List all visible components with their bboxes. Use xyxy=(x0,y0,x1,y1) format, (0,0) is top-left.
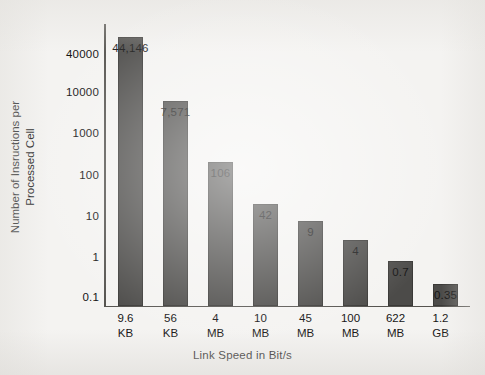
x-tick-speed-6: 622 xyxy=(386,312,405,324)
bar-value-label-1: 7,571 xyxy=(143,106,208,118)
y-tick-label: 100 xyxy=(79,169,99,181)
y-axis-title-line2: Processed Cell xyxy=(24,128,36,205)
x-tick-speed-0: 9.6 xyxy=(118,312,134,324)
y-tick-label: 10 xyxy=(86,210,99,222)
x-tick-speed-4: 45 xyxy=(299,312,312,324)
y-tick-label: 40000 xyxy=(66,48,99,60)
y-tick-label: 1000 xyxy=(73,127,99,139)
bar-value-label-2: 106 xyxy=(188,167,253,179)
x-tick-speed-5: 100 xyxy=(341,312,360,324)
bar-chart: 40000 10000 1000 100 10 1 0.1 44,146 7,5… xyxy=(0,0,485,375)
x-tick-label-7: 1.2 GB xyxy=(408,311,473,340)
bar-value-label-4: 9 xyxy=(278,226,343,238)
y-tick-label: 0.1 xyxy=(82,291,99,303)
bar-value-label-3: 42 xyxy=(233,209,298,221)
bar-value-label-7: 0.35 xyxy=(413,289,478,301)
y-tick-label: 1 xyxy=(92,251,99,263)
bar-2 xyxy=(208,162,233,306)
x-tick-speed-1: 56 xyxy=(164,312,177,324)
bar-0 xyxy=(118,37,143,306)
y-axis-title: Number of Insructions per Processed Cell xyxy=(8,82,38,252)
bar-value-label-6: 0.7 xyxy=(368,266,433,278)
bar-1 xyxy=(163,101,188,306)
y-tick-label: 10000 xyxy=(66,86,99,98)
x-axis-title: Link Speed in Bit/s xyxy=(0,349,485,361)
x-tick-speed-3: 10 xyxy=(254,312,267,324)
x-tick-speed-7: 1.2 xyxy=(433,312,449,324)
x-tick-speed-2: 4 xyxy=(212,312,218,324)
y-axis-title-line1: Number of Insructions per xyxy=(9,101,21,233)
x-tick-unit-7: GB xyxy=(408,326,473,341)
bar-value-label-0: 44,146 xyxy=(98,42,163,54)
plot-area: 44,146 7,571 106 42 9 4 0.7 0.35 xyxy=(105,24,470,306)
bar-value-label-5: 4 xyxy=(323,245,388,257)
